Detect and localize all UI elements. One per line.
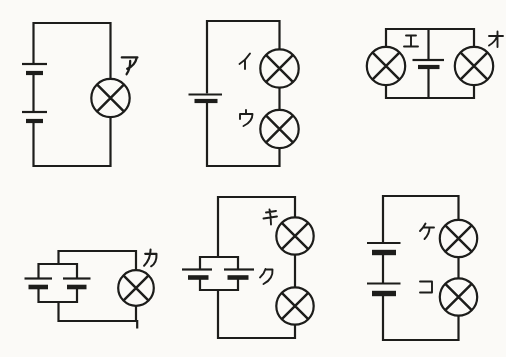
lamp-icon	[276, 287, 313, 324]
battery-icon	[63, 279, 91, 288]
battery-icon	[22, 112, 47, 121]
lamp-icon	[440, 278, 477, 315]
circuit-f: ケ コ	[367, 196, 477, 340]
lamp-label: ア	[121, 54, 139, 75]
lamp-label: コ	[419, 279, 434, 297]
circuit-b: イ ウ	[189, 21, 299, 166]
lamp-label: カ	[144, 249, 160, 268]
circuit-diagrams: ア イ ウ	[0, 0, 506, 357]
lamp-icon	[276, 217, 313, 254]
lamp-label: ク	[260, 268, 275, 286]
circuit-d: カ	[25, 249, 160, 328]
wire	[383, 196, 459, 340]
battery-icon	[367, 243, 401, 253]
lamp-label: エ	[404, 33, 419, 51]
worksheet-page: ア イ ウ	[0, 0, 506, 357]
lamp-icon	[455, 47, 493, 85]
battery-icon	[189, 95, 223, 102]
battery-icon	[25, 279, 53, 288]
circuit-e: キ ク	[182, 197, 314, 338]
lamp-label: ウ	[239, 110, 254, 128]
lamp-label: キ	[263, 209, 278, 227]
lamp-icon	[440, 220, 477, 257]
lamp-icon	[367, 47, 405, 85]
lamp-label: イ	[239, 53, 254, 71]
circuit-a: ア	[22, 23, 139, 166]
battery-icon	[224, 270, 254, 278]
lamp-icon	[260, 110, 298, 148]
battery-icon	[367, 284, 401, 294]
lamp-label: ケ	[420, 223, 435, 241]
lamp-icon	[260, 49, 298, 87]
circuit-c: エ オ	[367, 29, 504, 98]
battery-icon	[413, 60, 445, 67]
battery-icon	[182, 270, 212, 278]
battery-icon	[22, 64, 47, 73]
lamp-icon	[118, 270, 154, 306]
lamp-icon	[91, 79, 129, 117]
lamp-label: オ	[489, 31, 504, 49]
